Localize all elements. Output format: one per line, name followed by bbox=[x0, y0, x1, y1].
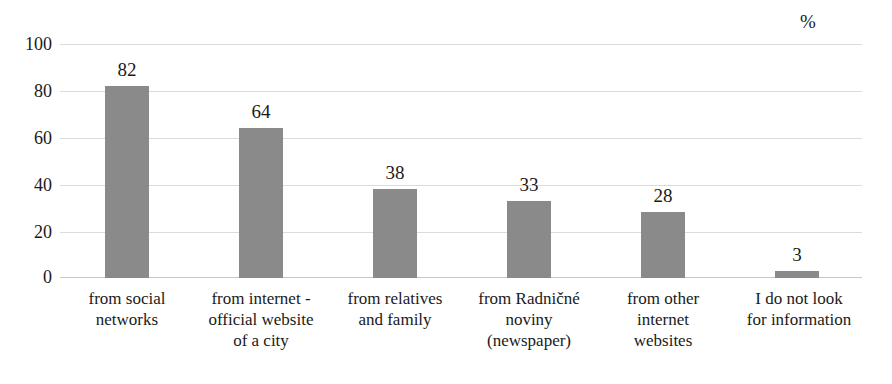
bar-from-other-internet-websites[interactable] bbox=[641, 212, 685, 278]
bar-i-do-not-look-for-information[interactable] bbox=[775, 271, 819, 278]
bar-from-relatives-and-family[interactable] bbox=[373, 189, 417, 278]
bar-value-label: 28 bbox=[654, 186, 673, 205]
bar-chart: % 100 80 60 40 20 0 82 64 38 bbox=[0, 0, 892, 384]
bar-value-label: 3 bbox=[792, 245, 802, 264]
x-axis-label-from-relatives-and-family: from relatives and family bbox=[328, 288, 462, 330]
bars-layer: 82 64 38 33 28 3 bbox=[60, 44, 862, 278]
bar-value-label: 33 bbox=[520, 175, 539, 194]
y-tick-label: 80 bbox=[6, 82, 52, 100]
x-axis-label-from-social-networks: from social networks bbox=[60, 288, 194, 330]
bar-slot: 28 bbox=[596, 44, 730, 278]
y-tick-label: 100 bbox=[6, 35, 52, 53]
unit-label: % bbox=[800, 12, 816, 31]
x-axis-label-from-other-internet-sites: from other internet websites bbox=[596, 288, 730, 351]
x-axis: from social networks from internet - off… bbox=[60, 288, 862, 384]
bar-slot: 64 bbox=[194, 44, 328, 278]
bar-slot: 82 bbox=[60, 44, 194, 278]
bar-slot: 33 bbox=[462, 44, 596, 278]
x-axis-label-from-internet-official-site: from internet - official website of a ci… bbox=[192, 288, 330, 351]
bar-slot: 3 bbox=[730, 44, 864, 278]
y-tick-label: 0 bbox=[6, 268, 52, 286]
bar-from-internet-official-website[interactable] bbox=[239, 128, 283, 278]
bar-value-label: 82 bbox=[118, 60, 137, 79]
y-tick-label: 60 bbox=[6, 129, 52, 147]
y-tick-label: 40 bbox=[6, 176, 52, 194]
bar-value-label: 64 bbox=[252, 102, 271, 121]
bar-from-radnicne-noviny[interactable] bbox=[507, 201, 551, 278]
x-axis-label-from-radnicne-noviny: from Radničné noviny (newspaper) bbox=[462, 288, 596, 351]
x-axis-label-i-do-not-look: I do not look for information bbox=[728, 288, 870, 330]
bar-from-social-networks[interactable] bbox=[105, 86, 149, 278]
bar-slot: 38 bbox=[328, 44, 462, 278]
y-axis: 100 80 60 40 20 0 bbox=[0, 44, 52, 278]
y-tick-label: 20 bbox=[6, 223, 52, 241]
bar-value-label: 38 bbox=[386, 163, 405, 182]
